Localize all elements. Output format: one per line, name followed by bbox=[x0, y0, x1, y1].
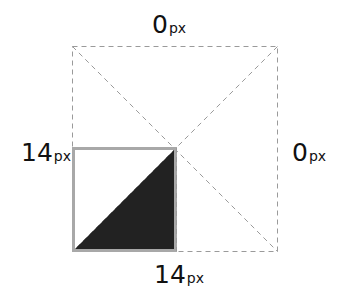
label-left-value: 14 bbox=[21, 138, 53, 167]
label-right-unit: px bbox=[309, 148, 326, 164]
label-left-unit: px bbox=[54, 148, 71, 164]
label-bottom-value: 14 bbox=[154, 260, 186, 289]
label-bottom-unit: px bbox=[187, 270, 204, 286]
label-top-value: 0 bbox=[152, 10, 168, 39]
label-border-right: 0px bbox=[292, 140, 326, 165]
label-border-bottom: 14px bbox=[154, 262, 204, 287]
border-triangle-diagram: 0px 14px 0px 14px bbox=[0, 0, 348, 298]
label-right-value: 0 bbox=[292, 138, 308, 167]
dark-triangle bbox=[74, 149, 175, 250]
label-border-left: 14px bbox=[21, 140, 71, 165]
label-top-unit: px bbox=[169, 20, 186, 36]
label-border-top: 0px bbox=[152, 12, 186, 37]
